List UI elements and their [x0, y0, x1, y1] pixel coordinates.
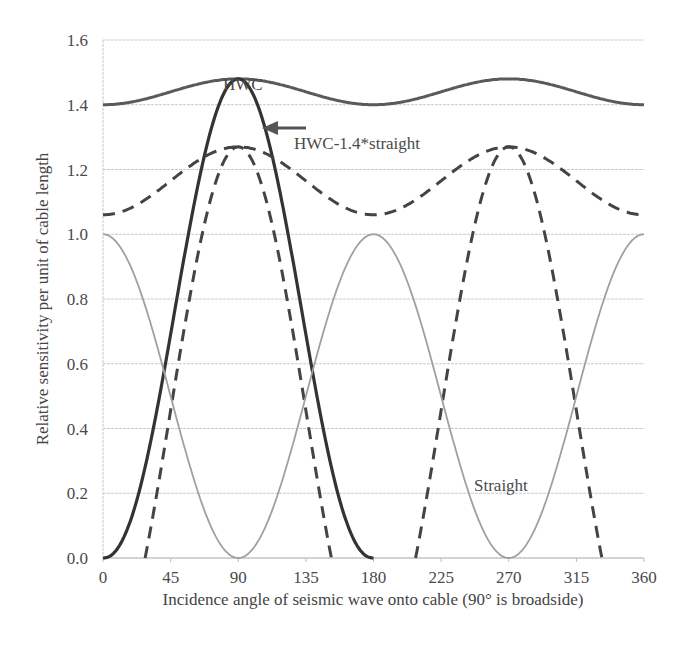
series-straight — [103, 234, 644, 558]
grid-lines — [103, 40, 644, 558]
y-tick-label: 0.4 — [67, 420, 89, 439]
annotation-hwc-minus-straight: HWC-1.4*straight — [294, 134, 420, 153]
x-tick-label: 0 — [99, 568, 108, 587]
y-axis-label: Relative sensitivity per unit of cable l… — [33, 152, 52, 445]
annotation-hwc: HWC — [223, 75, 263, 94]
chart: 0.00.20.40.60.81.01.21.41.6 045901351802… — [0, 0, 687, 652]
x-tick-label: 315 — [564, 568, 590, 587]
x-tick-label: 270 — [496, 568, 522, 587]
x-tick-label: 180 — [361, 568, 387, 587]
x-tick-labels: 04590135180225270315360 — [99, 568, 657, 587]
x-axis-label: Incidence angle of seismic wave onto cab… — [163, 590, 584, 609]
y-tick-label: 0.0 — [67, 549, 88, 568]
x-tick-label: 45 — [162, 568, 179, 587]
series-hwc-minus-straight — [145, 147, 602, 558]
y-tick-labels: 0.00.20.40.60.81.01.21.41.6 — [67, 31, 89, 568]
y-tick-label: 1.6 — [67, 31, 88, 50]
y-tick-label: 1.2 — [67, 161, 88, 180]
x-tick-label: 360 — [631, 568, 657, 587]
x-tick-label: 225 — [428, 568, 454, 587]
y-tick-label: 1.0 — [67, 225, 88, 244]
y-tick-label: 0.2 — [67, 484, 88, 503]
axes — [103, 40, 644, 562]
x-tick-label: 135 — [293, 568, 319, 587]
y-tick-label: 1.4 — [67, 96, 89, 115]
y-tick-label: 0.6 — [67, 355, 88, 374]
x-tick-label: 90 — [230, 568, 247, 587]
series-hwc-minus-straight-envelope — [103, 147, 644, 215]
y-tick-label: 0.8 — [67, 290, 88, 309]
series-hwc — [103, 79, 644, 105]
annotation-straight: Straight — [474, 476, 528, 495]
